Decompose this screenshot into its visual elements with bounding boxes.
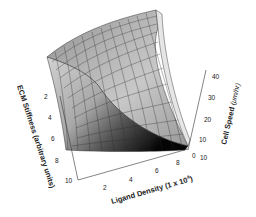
speed-axis: 0 10 20 30 40 Cell Speed (μm/hr)	[188, 70, 242, 159]
stiffness-tick: 4	[48, 114, 52, 121]
speed-axis-label: Cell Speed (μm/hr)	[219, 82, 242, 145]
surface-plot: 2 4 6 8 10 ECM Stiffness (arbitrary unit…	[0, 0, 256, 217]
stiffness-tick: 10	[65, 177, 73, 184]
ligand-tick: 4	[129, 176, 133, 183]
ligand-axis: 2 4 6 8 10 Ligand Density (1 x 104)	[78, 149, 208, 206]
speed-tick: 40	[212, 73, 220, 80]
surface	[47, 10, 190, 152]
speed-tick: 20	[204, 116, 212, 123]
ligand-axis-label: Ligand Density (1 x 104)	[110, 173, 194, 206]
speed-tick: 0	[192, 152, 196, 159]
speed-tick: 10	[199, 136, 207, 143]
ligand-tick: 2	[103, 184, 107, 191]
speed-tick: 30	[208, 94, 216, 101]
stiffness-tick: 6	[51, 135, 55, 142]
stiffness-tick: 8	[55, 157, 59, 164]
stiffness-tick: 2	[44, 93, 48, 100]
ligand-tick: 10	[200, 154, 208, 161]
ligand-tick: 6	[155, 167, 159, 174]
ligand-tick: 8	[176, 159, 180, 166]
